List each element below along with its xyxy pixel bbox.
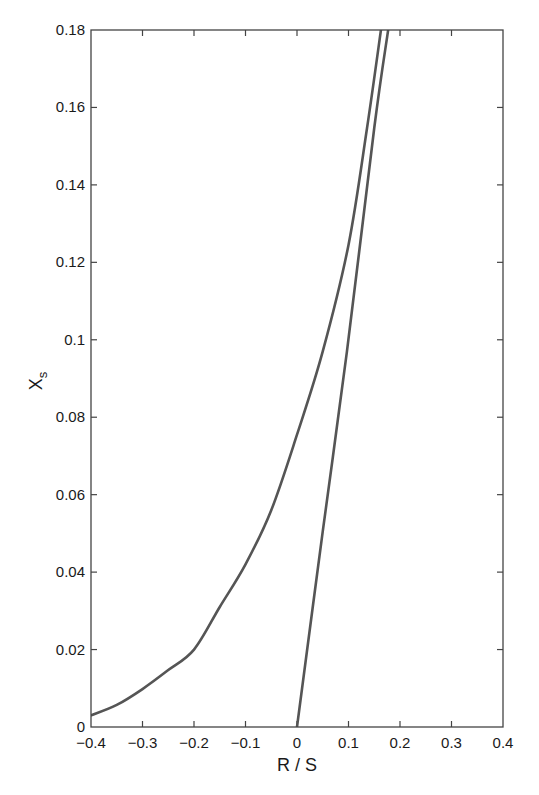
x-tick-label: 0.4 xyxy=(493,734,514,751)
series-curve xyxy=(91,30,381,715)
y-tick-label: 0.12 xyxy=(56,253,85,270)
y-tick-label: 0 xyxy=(77,718,85,735)
x-tick-label: 0.1 xyxy=(338,734,359,751)
y-tick-label: 0.04 xyxy=(56,563,85,580)
x-tick-label: 0 xyxy=(293,734,301,751)
y-axis-label-subscript: s xyxy=(35,371,50,378)
y-axis-label-group: Xs xyxy=(26,371,50,390)
y-tick-label: 0.08 xyxy=(56,408,85,425)
series-line xyxy=(297,30,388,727)
y-tick-label: 0.18 xyxy=(56,21,85,38)
x-tick-label: −0.2 xyxy=(179,734,209,751)
y-tick-label: 0.14 xyxy=(56,176,85,193)
chart: −0.4−0.3−0.2−0.100.10.20.30.400.020.040.… xyxy=(0,0,539,795)
x-axis-label: R / S xyxy=(277,755,317,775)
y-axis-label: Xs xyxy=(26,371,50,390)
ticks-layer xyxy=(91,30,503,727)
x-tick-label: −0.4 xyxy=(76,734,106,751)
y-tick-label: 0.1 xyxy=(64,331,85,348)
series-layer xyxy=(91,30,388,727)
x-tick-label: 0.2 xyxy=(390,734,411,751)
x-tick-label: 0.3 xyxy=(441,734,462,751)
y-tick-label: 0.06 xyxy=(56,486,85,503)
x-tick-label: −0.1 xyxy=(231,734,261,751)
y-tick-label: 0.16 xyxy=(56,98,85,115)
y-tick-label: 0.02 xyxy=(56,641,85,658)
plot-frame xyxy=(91,30,503,727)
x-tick-label: −0.3 xyxy=(128,734,158,751)
y-axis-label-main: X xyxy=(26,378,46,390)
labels-layer: −0.4−0.3−0.2−0.100.10.20.30.400.020.040.… xyxy=(56,21,514,751)
